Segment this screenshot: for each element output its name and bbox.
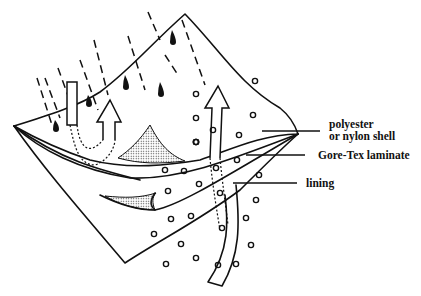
vapor-strip — [208, 185, 238, 286]
label-lining: lining — [306, 177, 334, 189]
fabric-illustration — [0, 0, 421, 296]
label-laminate: Gore-Tex laminate — [318, 149, 410, 161]
vapor-arrow-right — [205, 86, 229, 158]
label-shell: polyester or nylon shell — [329, 118, 395, 142]
vapor-arrow-left — [67, 82, 77, 125]
goretex-diagram: polyester or nylon shell Gore-Tex lamina… — [0, 0, 421, 296]
vapor-arrow-center — [97, 100, 121, 140]
